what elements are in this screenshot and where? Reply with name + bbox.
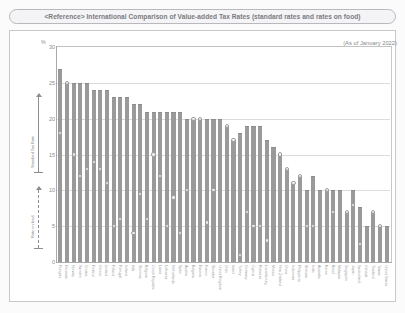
bar [245,126,249,262]
country-label: Estonia [198,265,202,277]
bar [85,83,89,262]
bar [145,112,149,263]
arrow-head-icon [36,93,42,97]
food-rate-marker [191,117,195,121]
bar [205,119,209,262]
country-label: Hungary [58,265,62,278]
bar [351,190,355,262]
food-rate-marker [65,81,69,85]
food-rate-marker [345,210,349,214]
bar [178,112,182,263]
country-label: Japan [351,265,355,275]
country-label: Lithuania [164,265,168,279]
country-label: Germany [244,265,248,279]
country-label: Canada [364,265,368,277]
food-rate-marker [278,152,282,156]
bar [191,119,195,262]
y-axis-tick-label: 15 [37,152,55,158]
bar [298,176,302,262]
country-label: Switzerland [357,265,361,283]
food-rate-marker [85,167,89,171]
bar [265,140,269,262]
food-rate-marker [151,152,155,156]
chart-page: <Reference> International Comparison of … [0,0,405,313]
country-label: Slovakia [211,265,215,278]
country-label: China [284,265,288,274]
bar [118,97,122,262]
country-label: Greece [98,265,102,277]
country-label: France [204,265,208,276]
country-label: New Zealand [278,265,282,286]
country-label: Singapore [344,265,348,281]
country-label: Indonesia [291,265,295,280]
country-label: Netherlands [171,265,175,284]
bar [198,119,202,262]
bar [358,207,362,262]
country-label: Czech Republic [151,265,155,289]
country-label: Belgium [144,265,148,278]
arrow-base [34,172,43,173]
food-rate-marker [285,167,289,171]
y-axis-tick-label: 20 [37,116,55,122]
plot-area [57,47,390,262]
country-label: United Kingdom [218,265,222,290]
country-label: Slovenia [138,265,142,278]
bar [112,97,116,262]
standard-rate-range-arrow [38,97,39,172]
bar [385,226,389,262]
country-label: Poland [111,265,115,276]
bar [285,169,289,262]
arrow-head-icon [36,186,42,190]
country-label: Denmark [64,265,68,279]
country-label: Malaysia [337,265,341,279]
bar [231,140,235,262]
food-rate-marker [251,224,255,228]
country-label: Iceland [104,265,108,276]
bar [325,190,329,262]
bar [78,83,82,262]
country-label: India [311,265,315,273]
bar [271,147,275,262]
country-label: Italy [131,265,135,271]
food-rate-marker [92,160,96,164]
food-rate-marker [291,181,295,185]
bar [65,83,69,262]
country-label: Vietnam [304,265,308,278]
food-rate-marker [225,124,229,128]
y-axis-tick-label: 5 [37,224,55,230]
country-label: Austria [184,265,188,276]
food-rate-range-arrow [38,190,39,248]
bar [331,190,335,262]
food-rate-marker [145,217,149,221]
food-rate-marker [265,238,269,242]
bar [371,212,375,262]
bar [225,126,229,262]
plot-right-border [391,46,392,263]
food-rate-marker [231,138,235,142]
country-label: Bulgaria [191,265,195,278]
country-label: Cyprus [251,265,255,276]
country-label: Australia [317,265,321,279]
food-rate-marker [198,117,202,121]
y-axis-tick-label: 30 [37,44,55,50]
bar [92,90,96,262]
bar [238,133,242,262]
country-label: Norway [71,265,75,277]
bar [98,90,102,262]
country-label: Ireland [124,265,128,276]
y-axis-tick-label: 25 [37,80,55,86]
country-label: Latvia [158,265,162,274]
food-rate-marker [171,195,175,199]
country-label: Thailand [371,265,375,278]
country-label: Sweden [78,265,82,278]
bar [171,112,175,263]
bar [345,212,349,262]
country-label: Finland [91,265,95,276]
food-rate-marker [245,210,249,214]
country-label: Philippines [297,265,301,282]
bar [378,226,382,262]
country-label: Brazil [331,265,335,274]
bar [58,69,62,263]
bar [365,226,369,262]
bar [251,126,255,262]
